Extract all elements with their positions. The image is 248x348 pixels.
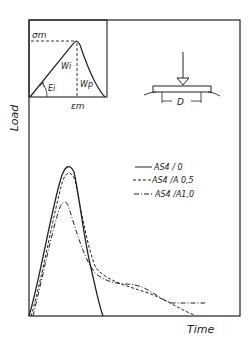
support-left	[144, 92, 156, 95]
legend-label-as4-a10: AS4 /A1,0	[154, 190, 194, 199]
epsilon-m-label: εm	[71, 101, 85, 111]
legend-label-as4-0: AS4 / 0	[153, 163, 183, 172]
specimen-plate	[153, 86, 211, 92]
wp-label: Wp	[80, 80, 93, 89]
inset-stress-strain: σm Wi Wp Ei εm	[29, 20, 107, 111]
support-right	[208, 92, 220, 96]
sigma-m-label: σm	[32, 30, 47, 40]
modulus-arc	[42, 83, 47, 97]
load-arrow-icon	[177, 78, 189, 85]
x-axis-label: Time	[187, 323, 214, 336]
legend-label-as4-a05: AS4 /A 0,5	[151, 176, 194, 185]
legend: AS4 / 0 AS4 /A 0,5 AS4 /A1,0	[133, 163, 194, 199]
impact-load-time-figure: σm Wi Wp Ei εm D Load Time AS4 / 0 AS4 /…	[0, 0, 248, 348]
y-axis-label: Load	[8, 104, 21, 132]
wi-label: Wi	[61, 62, 72, 71]
curve-as4-a10	[33, 202, 205, 316]
curve-as4-0	[29, 167, 103, 316]
specimen-sketch: D	[144, 52, 220, 107]
diameter-label: D	[177, 97, 184, 107]
ei-label: Ei	[48, 84, 56, 93]
